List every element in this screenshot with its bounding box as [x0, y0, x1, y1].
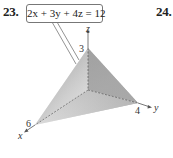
y-axis-label: y: [153, 102, 159, 113]
y-arrow-icon: [148, 105, 153, 109]
x-intercept-label: 6: [26, 118, 31, 129]
equation-callout: 2x + 3y + 4z = 12: [26, 4, 103, 23]
x-arrow-icon: [24, 129, 29, 133]
y-intercept-label: 4: [135, 105, 140, 116]
callout-leader: [57, 22, 79, 60]
plane-figure: z 3 4 y 6 x: [0, 0, 173, 158]
callout-leader: [52, 22, 76, 64]
x-axis-label: x: [17, 130, 23, 141]
z-axis-label: z: [85, 23, 90, 34]
plane-triangle: [35, 48, 138, 125]
z-intercept-label: 3: [79, 43, 84, 54]
